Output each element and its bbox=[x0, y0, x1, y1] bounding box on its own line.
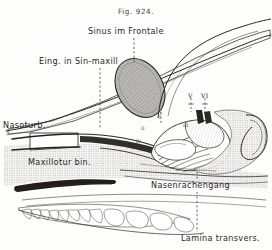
marker-ethmoturbinal-vi: VI bbox=[201, 93, 208, 99]
label-nasoturb: Nasoturb. bbox=[3, 121, 46, 129]
cranial-vault-outline bbox=[158, 19, 271, 118]
marker-turbinal-ii: II bbox=[141, 127, 144, 131]
label-maxilloturbin: Maxillotur bin. bbox=[28, 158, 91, 166]
marker-turbinal-iv: IV bbox=[136, 140, 141, 144]
label-lamina-transvers: Lamina transvers. bbox=[181, 234, 260, 242]
tooth-row bbox=[18, 204, 204, 234]
figure-container: Fig. 924. Sinus im Frontale Eing. in Sin… bbox=[0, 0, 272, 250]
label-nasenrachengang: Nasenrachengang bbox=[151, 181, 230, 189]
marker-turbinal-iii: III bbox=[183, 124, 188, 128]
marker-turbinal-i: I bbox=[159, 116, 161, 120]
figure-caption: Fig. 924. bbox=[118, 8, 154, 15]
label-eing-in-sin-maxill: Eing. in Sin-maxill bbox=[39, 57, 118, 65]
marker-ethmoturbinal-v: V bbox=[188, 93, 193, 99]
label-sinus-im-frontale: Sinus im Frontale bbox=[88, 27, 164, 35]
